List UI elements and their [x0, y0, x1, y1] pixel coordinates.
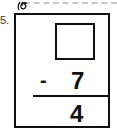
minus-operator: - — [40, 69, 47, 92]
sum-line — [33, 95, 110, 97]
subtrahend: 7 — [71, 67, 84, 95]
result: 4 — [70, 100, 83, 128]
spiral-icon — [17, 0, 29, 11]
dashed-separator — [24, 2, 117, 4]
question-number: 5. — [0, 14, 9, 26]
answer-input-box[interactable] — [55, 23, 95, 60]
